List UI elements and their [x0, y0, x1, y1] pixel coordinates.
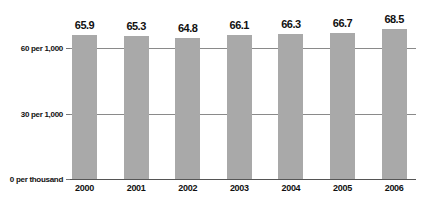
bar-2003 [227, 35, 252, 179]
y-axis-label: 0 per thousand [10, 175, 63, 184]
bar-2004 [278, 34, 303, 179]
value-label: 66.1 [219, 19, 259, 31]
gridline [70, 179, 416, 180]
y-tick [66, 179, 70, 180]
x-axis-label: 2001 [116, 183, 156, 193]
value-label: 65.3 [116, 20, 156, 32]
bar-chart: 0 per thousand30 per 1,00060 per 1,00065… [0, 0, 432, 204]
value-label: 66.3 [271, 18, 311, 30]
y-tick [66, 48, 70, 49]
x-axis-label: 2002 [168, 183, 208, 193]
x-axis-label: 2005 [323, 183, 363, 193]
x-axis-label: 2006 [374, 183, 414, 193]
y-tick [66, 114, 70, 115]
x-axis-label: 2000 [65, 183, 105, 193]
value-label: 68.5 [374, 13, 414, 25]
bar-2001 [124, 36, 149, 179]
x-axis-label: 2004 [271, 183, 311, 193]
bar-2006 [382, 29, 407, 179]
value-label: 66.7 [323, 17, 363, 29]
value-label: 65.9 [65, 19, 105, 31]
bar-2000 [72, 35, 97, 179]
bar-2002 [175, 38, 200, 179]
y-axis-label: 60 per 1,000 [21, 44, 63, 53]
value-label: 64.8 [168, 22, 208, 34]
bar-2005 [330, 33, 355, 179]
x-axis-label: 2003 [219, 183, 259, 193]
y-axis-label: 30 per 1,000 [21, 110, 63, 119]
